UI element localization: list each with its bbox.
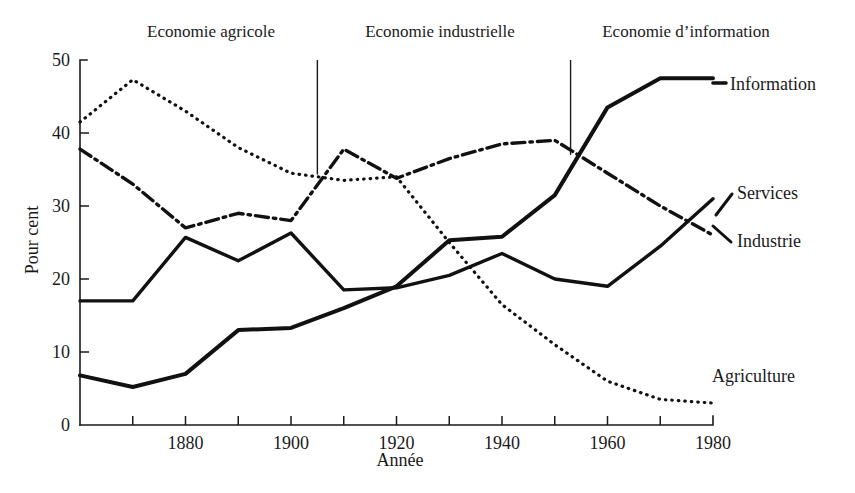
y-axis-title: Pour cent [22, 206, 42, 274]
y-axis [80, 60, 87, 425]
x-tick-label: 1900 [273, 433, 309, 453]
series-line-agriculture [80, 80, 713, 403]
y-tick-labels: 01020304050 [52, 50, 70, 435]
series-labels: InformationServicesIndustrieAgriculture [712, 74, 816, 386]
era-label-industrielle: Economie industrielle [365, 22, 515, 41]
figure-container: Economie agricole Economie industrielle … [0, 0, 855, 493]
era-label-agricole: Economie agricole [147, 22, 275, 41]
x-tick-label: 1980 [695, 433, 731, 453]
x-axis-title: Année [377, 450, 424, 470]
series-line-information [80, 78, 713, 387]
x-tick-label: 1880 [168, 433, 204, 453]
series-leader-industrie [713, 226, 731, 242]
x-tick-label: 1940 [484, 433, 520, 453]
x-tick-labels: 188019001920194019601980 [168, 433, 732, 453]
y-tick-label: 50 [52, 50, 70, 70]
y-tick-label: 30 [52, 196, 70, 216]
series-label-information: Information [730, 74, 816, 94]
axes: 01020304050 188019001920194019601980 [52, 50, 731, 453]
y-ticks [80, 133, 89, 352]
y-tick-label: 40 [52, 123, 70, 143]
series-label-industrie: Industrie [737, 231, 801, 251]
y-tick-label: 20 [52, 269, 70, 289]
y-tick-label: 10 [52, 342, 70, 362]
series-label-agriculture: Agriculture [712, 366, 795, 386]
series-group [80, 78, 713, 403]
series-line-industrie [80, 140, 713, 235]
series-label-services: Services [737, 183, 798, 203]
x-tick-label: 1960 [590, 433, 626, 453]
x-ticks [133, 416, 661, 425]
y-tick-label: 0 [61, 415, 70, 435]
era-label-information: Economie d’information [602, 22, 770, 41]
series-leader-services [716, 194, 732, 215]
line-chart: Economie agricole Economie industrielle … [0, 0, 855, 493]
